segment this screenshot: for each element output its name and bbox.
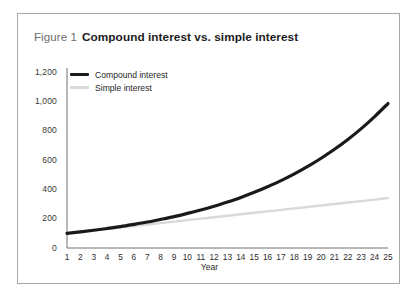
x-axis-tick-label: 14 <box>234 252 248 262</box>
x-axis-tick-label: 19 <box>301 252 315 262</box>
x-axis-tick-label: 20 <box>314 252 328 262</box>
chart-plot-area: 02004006008001,0001,200 1234567891011121… <box>18 14 401 285</box>
x-axis-tick-label: 25 <box>381 252 395 262</box>
x-axis-tick-label: 4 <box>100 252 114 262</box>
x-axis-tick-label: 12 <box>207 252 221 262</box>
x-axis-tick-label: 21 <box>328 252 342 262</box>
x-axis-tick-label: 13 <box>221 252 235 262</box>
x-axis-tick-label: 16 <box>261 252 275 262</box>
y-axis-tick-label: 0 <box>21 243 57 253</box>
chart-canvas <box>18 14 401 285</box>
y-axis-tick-label: 800 <box>21 125 57 135</box>
y-axis-tick-label: 600 <box>21 155 57 165</box>
x-axis-tick-label: 9 <box>167 252 181 262</box>
x-axis-tick-label: 22 <box>341 252 355 262</box>
x-axis-tick-label: 15 <box>247 252 261 262</box>
x-axis-title: Year <box>18 262 401 272</box>
x-axis-tick-label: 5 <box>114 252 128 262</box>
x-axis-tick-label: 24 <box>368 252 382 262</box>
y-axis-tick-label: 400 <box>21 184 57 194</box>
x-axis-tick-label: 3 <box>87 252 101 262</box>
series-line-compound-interest <box>67 104 388 234</box>
x-axis-tick-label: 23 <box>354 252 368 262</box>
x-axis-tick-label: 17 <box>274 252 288 262</box>
x-axis-tick-label: 2 <box>73 252 87 262</box>
x-axis-tick-label: 11 <box>194 252 208 262</box>
x-axis-tick-label: 8 <box>154 252 168 262</box>
y-axis-tick-label: 1,200 <box>21 67 57 77</box>
x-axis-tick-label: 1 <box>60 252 74 262</box>
x-axis-tick-label: 6 <box>127 252 141 262</box>
x-axis-tick-label: 10 <box>180 252 194 262</box>
y-axis-tick-label: 1,000 <box>21 96 57 106</box>
x-axis-tick-label: 18 <box>287 252 301 262</box>
figure-container: Figure 1Compound interest vs. simple int… <box>17 13 400 284</box>
x-axis-tick-label: 7 <box>140 252 154 262</box>
y-axis-tick-label: 200 <box>21 213 57 223</box>
